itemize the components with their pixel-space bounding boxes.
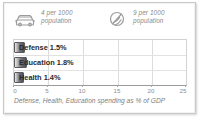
x-tick-label: 10 (79, 87, 86, 94)
car-icon (13, 9, 37, 29)
stat-label-football: 9 per 1000 population (133, 9, 195, 24)
gridline-vertical (118, 40, 119, 85)
gridline-vertical (152, 40, 153, 85)
x-tick-label: 0 (13, 87, 16, 94)
x-tick-label: 20 (148, 87, 155, 94)
bar-label-health: Health 1.4% (19, 72, 61, 83)
x-tick-label: 5 (45, 87, 48, 94)
bar-label-defense: Defense 1.5% (19, 42, 67, 53)
infographic-card: 4 per 1000 population 9 per 1000 populat… (3, 2, 196, 114)
football-icon (105, 9, 129, 29)
x-axis: 0 5 10 15 20 25 (13, 87, 187, 96)
stats-strip: 4 per 1000 population 9 per 1000 populat… (4, 3, 195, 36)
x-tick-label: 25 (180, 87, 187, 94)
gridline-vertical (83, 40, 84, 85)
gridline-horizontal (14, 70, 186, 71)
bar-chart-plot: Defense 1.5% Education 1.8% Health 1.4% (13, 39, 187, 86)
gridline-horizontal (14, 55, 186, 56)
chart-caption: Defense, Health, Education spending as %… (14, 97, 194, 104)
stat-label-cars: 4 per 1000 population (41, 9, 103, 24)
x-tick-label: 15 (114, 87, 121, 94)
bar-label-education: Education 1.8% (19, 57, 74, 68)
